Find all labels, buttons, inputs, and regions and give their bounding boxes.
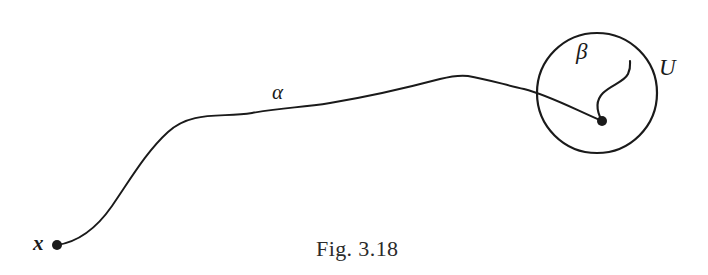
label-neighborhood-u: U xyxy=(659,56,676,79)
figure-container: x α β U Fig. 3.18 xyxy=(0,0,708,275)
label-beta: β xyxy=(576,40,587,63)
alpha-path xyxy=(57,76,602,245)
figure-caption: Fig. 3.18 xyxy=(316,236,398,262)
neighborhood-circle xyxy=(537,33,657,153)
label-x: x xyxy=(33,233,44,254)
beta-path xyxy=(598,61,631,121)
start-point-x xyxy=(52,240,62,250)
figure-drawing-canvas xyxy=(0,0,708,275)
label-alpha: α xyxy=(272,82,283,103)
end-point-basepoint xyxy=(597,116,607,126)
